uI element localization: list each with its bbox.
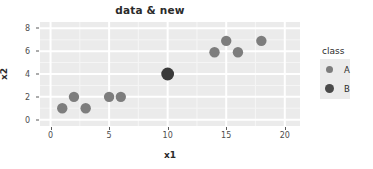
- y-tick-label: 2: [16, 92, 30, 101]
- y-tick-mark: [36, 28, 39, 29]
- data-point-A: [221, 36, 231, 46]
- y-tick-mark: [36, 74, 39, 75]
- data-point-A: [104, 92, 114, 102]
- plot-panel: [40, 22, 300, 126]
- x-tick-mark: [51, 127, 52, 130]
- plot-area: [40, 22, 300, 126]
- legend-dot-icon: [325, 84, 334, 93]
- legend-swatch-icon: [320, 60, 339, 79]
- data-point-B: [161, 68, 174, 81]
- legend-item-label: A: [344, 65, 350, 75]
- legend-item[interactable]: A: [320, 60, 350, 79]
- data-point-A: [69, 92, 79, 102]
- data-point-A: [233, 47, 243, 57]
- legend-dot-icon: [326, 66, 333, 73]
- x-tick-mark: [285, 127, 286, 130]
- legend-keys: AB: [320, 59, 350, 99]
- y-tick-mark: [36, 119, 39, 120]
- y-tick-label: 6: [16, 47, 30, 56]
- x-tick-label: 15: [221, 131, 231, 140]
- x-tick-label: 10: [163, 131, 173, 140]
- x-tick-mark: [109, 127, 110, 130]
- legend-title: class: [322, 46, 373, 56]
- x-tick-mark: [226, 127, 227, 130]
- chart-title: data & new: [0, 4, 300, 16]
- legend-item[interactable]: B: [320, 79, 350, 98]
- data-point-A: [80, 103, 90, 113]
- y-tick-label: 0: [16, 115, 30, 124]
- data-point-A: [116, 92, 126, 102]
- x-tick-label: 5: [107, 131, 112, 140]
- y-tick-mark: [36, 51, 39, 52]
- x-tick-label: 0: [48, 131, 53, 140]
- y-tick-label: 8: [16, 24, 30, 33]
- legend: class AB: [320, 46, 373, 99]
- y-axis-title: x2: [0, 68, 9, 80]
- chart-root: data & new 02468 05101520 x1 x2 class AB: [0, 0, 373, 169]
- x-axis-title: x1: [40, 150, 300, 160]
- data-point-A: [209, 47, 219, 57]
- x-tick-label: 20: [280, 131, 290, 140]
- data-point-A: [256, 36, 266, 46]
- x-tick-mark: [168, 127, 169, 130]
- legend-swatch-icon: [320, 79, 339, 98]
- y-tick-mark: [36, 96, 39, 97]
- legend-item-label: B: [344, 84, 350, 94]
- y-tick-label: 4: [16, 70, 30, 79]
- data-point-A: [57, 103, 67, 113]
